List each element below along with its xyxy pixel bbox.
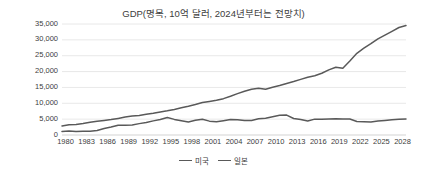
- x-tick-label: 2022: [352, 137, 369, 146]
- y-tick-label: 20,000: [2, 67, 58, 75]
- y-tick-label: 35,000: [2, 20, 58, 28]
- y-tick-label: 5,000: [2, 115, 58, 123]
- y-tick-label: 10,000: [2, 99, 58, 107]
- legend-line-icon: [179, 160, 192, 161]
- x-tick-label: 1983: [78, 137, 95, 146]
- x-tick-label: 2010: [268, 137, 285, 146]
- series-line-japan: [62, 115, 406, 131]
- y-tick-label: 15,000: [2, 83, 58, 91]
- series-line-usa: [62, 26, 406, 126]
- x-tick-label: 2019: [331, 137, 348, 146]
- legend-item-usa[interactable]: 미국: [179, 155, 209, 166]
- x-tick-label: 2025: [373, 137, 390, 146]
- legend: 미국일본: [0, 155, 427, 166]
- x-tick-label: 2007: [247, 137, 264, 146]
- legend-line-icon: [218, 160, 231, 161]
- x-tick-label: 2016: [310, 137, 327, 146]
- x-tick-label: 1998: [184, 137, 201, 146]
- x-tick-label: 1989: [120, 137, 137, 146]
- x-tick-label: 1992: [141, 137, 158, 146]
- x-axis: 1980198319861989199219951998200120042007…: [0, 137, 427, 149]
- x-tick-label: 1980: [57, 137, 74, 146]
- x-tick-label: 2028: [394, 137, 411, 146]
- x-tick-label: 2013: [289, 137, 306, 146]
- gdp-line-chart: GDP(명목, 10억 달러, 2024년부터는 전망치) 35,00030,0…: [0, 0, 427, 174]
- legend-label: 미국: [195, 155, 209, 166]
- x-tick-label: 2001: [205, 137, 222, 146]
- y-tick-label: 25,000: [2, 51, 58, 59]
- y-tick-label: 30,000: [2, 35, 58, 43]
- x-tick-label: 1986: [99, 137, 116, 146]
- x-tick-label: 1995: [162, 137, 179, 146]
- legend-item-japan[interactable]: 일본: [218, 155, 248, 166]
- gridlines: [62, 24, 406, 135]
- legend-label: 일본: [234, 155, 248, 166]
- series-lines: [62, 26, 406, 132]
- x-tick-label: 2004: [226, 137, 243, 146]
